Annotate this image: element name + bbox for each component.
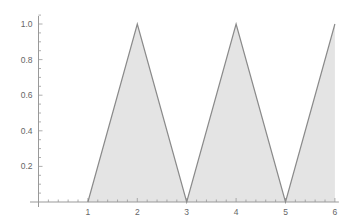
y-tick-label: 1.0 [21, 19, 33, 29]
y-tick-label: 0.2 [21, 161, 33, 171]
x-tick-label: 6 [333, 207, 338, 217]
y-tick-label: 0.8 [21, 55, 33, 65]
x-tick-labels: 123456 [86, 207, 338, 217]
y-tick-labels: 0.20.40.60.81.0 [21, 19, 33, 171]
x-tick-label: 2 [135, 207, 140, 217]
x-tick-label: 1 [86, 207, 91, 217]
chart: 123456 0.20.40.60.81.0 [0, 0, 355, 223]
minor-ticks [39, 15, 335, 202]
y-tick-label: 0.6 [21, 90, 33, 100]
x-tick-label: 4 [234, 207, 239, 217]
y-tick-label: 0.4 [21, 126, 33, 136]
x-tick-label: 5 [283, 207, 288, 217]
x-tick-label: 3 [184, 207, 189, 217]
